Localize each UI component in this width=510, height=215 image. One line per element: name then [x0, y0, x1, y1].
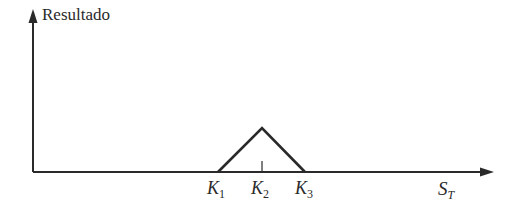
y-axis-arrow-icon [29, 9, 38, 23]
strike-k3-label: K3 [295, 178, 313, 202]
strike-k2-label: K2 [251, 178, 269, 202]
strike-k1-label: K1 [207, 178, 225, 202]
x-axis-arrow-icon [480, 168, 494, 177]
x-axis-label: ST [438, 178, 454, 203]
y-axis-label: Resultado [42, 5, 110, 25]
